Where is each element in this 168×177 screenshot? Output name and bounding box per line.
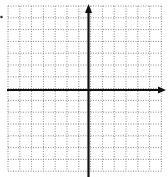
x-axis-arrow-icon	[158, 87, 166, 94]
coordinate-plane	[0, 0, 168, 177]
grid-lines	[8, 6, 161, 171]
stray-dot	[0, 16, 2, 18]
